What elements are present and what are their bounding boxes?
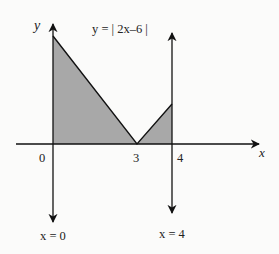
tick-label-3: 3 [133, 151, 139, 165]
tick-label-4: 4 [177, 151, 184, 165]
x-axis-label: x [258, 145, 265, 160]
line-label-x0: x = 0 [40, 229, 66, 243]
line-label-x4: x = 4 [159, 227, 186, 241]
y-axis-label: y [32, 18, 41, 33]
tick-label-0: 0 [39, 151, 45, 165]
shaded-area [53, 36, 172, 144]
area-under-absolute-value-diagram: y y = | 2x–6 | x 0 3 4 x = 0 x = 4 [0, 0, 279, 254]
equation-label: y = | 2x–6 | [92, 22, 148, 36]
